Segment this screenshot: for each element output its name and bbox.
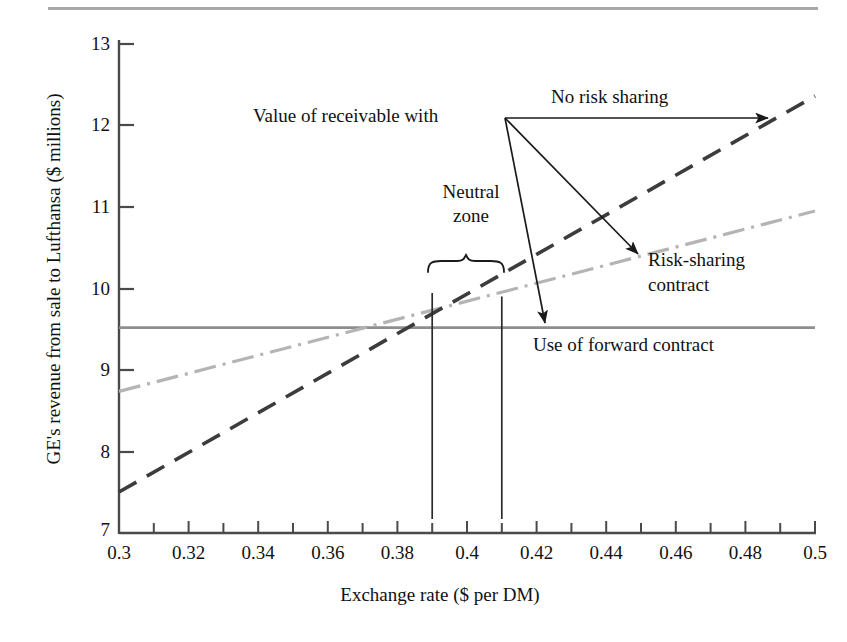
x-tick-label-0: 0.3 <box>89 542 149 564</box>
y-tick-label-13: 13 <box>70 33 110 55</box>
y-tick-label-10: 10 <box>70 278 110 300</box>
x-tick-label-9: 0.48 <box>715 542 775 564</box>
x-tick-label-4: 0.38 <box>367 542 427 564</box>
chart-figure: 13 12 11 10 9 8 7 0.3 0.32 0.34 0.36 0.3… <box>0 0 847 642</box>
y-axis-title: GE's revenue from sale to Lufthansa ($ m… <box>43 69 65 489</box>
annotation-no-risk-sharing: No risk sharing <box>551 85 668 109</box>
x-axis-ticks <box>119 521 815 533</box>
annotation-use-of-forward-contract: Use of forward contract <box>533 333 714 357</box>
annotation-value-of-receivable: Value of receivable with <box>253 104 438 128</box>
y-tick-label-8: 8 <box>70 441 110 463</box>
x-tick-label-1: 0.32 <box>159 542 219 564</box>
y-tick-label-12: 12 <box>70 114 110 136</box>
y-tick-label-7: 7 <box>70 519 110 541</box>
x-tick-label-6: 0.42 <box>507 542 567 564</box>
x-tick-label-3: 0.36 <box>298 542 358 564</box>
annotation-risk-sharing-contract: Risk-sharing contract <box>648 248 778 297</box>
x-tick-label-7: 0.44 <box>576 542 636 564</box>
y-tick-label-9: 9 <box>70 359 110 381</box>
x-tick-label-5: 0.4 <box>437 542 497 564</box>
x-tick-label-10: 0.5 <box>785 542 845 564</box>
neutral-zone-brace <box>428 255 504 272</box>
series-line-risk-sharing <box>119 211 815 391</box>
x-axis-title: Exchange rate ($ per DM) <box>310 584 570 606</box>
annotation-neutral-zone: Neutral zone <box>425 180 517 229</box>
x-tick-label-2: 0.34 <box>228 542 288 564</box>
y-tick-label-11: 11 <box>70 196 110 218</box>
x-tick-label-8: 0.46 <box>646 542 706 564</box>
